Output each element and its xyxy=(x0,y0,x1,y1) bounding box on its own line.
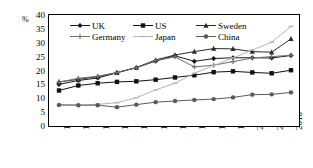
legend-item-japan[interactable]: Japan xyxy=(133,31,196,42)
series-china xyxy=(57,90,293,109)
chart-figure: % 4035302520151050 195019551960196519701… xyxy=(0,0,313,168)
legend-marker-icon-dash xyxy=(133,32,153,41)
y-axis-tick-label: 20 xyxy=(29,67,45,76)
chart-legend: UKUSSwedenGermanyJapanChina xyxy=(70,20,266,42)
legend-label: US xyxy=(155,21,167,31)
legend-item-germany[interactable]: Germany xyxy=(70,31,133,42)
legend-item-china[interactable]: China xyxy=(196,31,266,42)
legend-item-sweden[interactable]: Sweden xyxy=(196,20,266,31)
y-axis-tick-label: 10 xyxy=(29,94,45,103)
y-axis-tick-label: 35 xyxy=(29,25,45,34)
legend-marker-icon-triangle xyxy=(196,21,216,30)
y-axis-tick-label: 15 xyxy=(29,80,45,89)
legend-label: Japan xyxy=(155,32,176,42)
y-axis-tick-label: 5 xyxy=(29,108,45,117)
y-axis-tick-label: 0 xyxy=(29,122,45,131)
y-axis-tick-label: 30 xyxy=(29,39,45,48)
legend-marker-icon-diamond xyxy=(70,21,90,30)
legend-label: Sweden xyxy=(218,21,247,31)
series-germany xyxy=(57,53,294,85)
legend-marker-icon-circle xyxy=(196,32,216,41)
legend-item-us[interactable]: US xyxy=(133,20,196,31)
y-axis-tick-label: 25 xyxy=(29,53,45,62)
legend-item-uk[interactable]: UK xyxy=(70,20,133,31)
legend-label: Germany xyxy=(92,32,126,42)
legend-marker-icon-cross xyxy=(70,32,90,41)
series-us xyxy=(57,68,293,93)
legend-label: UK xyxy=(92,21,105,31)
legend-label: China xyxy=(218,32,240,42)
y-axis-tick-label: 40 xyxy=(29,11,45,20)
y-axis-unit-label: % xyxy=(22,16,29,24)
legend-marker-icon-square xyxy=(133,21,153,30)
